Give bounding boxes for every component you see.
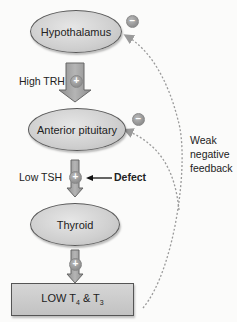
anterior-pituitary-label: Anterior pituitary bbox=[37, 124, 117, 136]
tsh-label: Low TSH bbox=[19, 171, 62, 183]
plus-icon: + bbox=[70, 75, 83, 88]
minus-icon: − bbox=[132, 113, 145, 126]
defect-label: Defect bbox=[114, 171, 146, 183]
feedback-label: Weak negative feedback bbox=[190, 133, 233, 175]
defect-arrow bbox=[86, 175, 112, 181]
thyroid-label: Thyroid bbox=[57, 219, 94, 231]
low-t4-t3-box: LOW T4 & T3 bbox=[11, 283, 134, 316]
trh-label: High TRH bbox=[19, 75, 65, 87]
thyroid-node: Thyroid bbox=[30, 203, 120, 246]
plus-icon: + bbox=[69, 171, 82, 184]
anterior-pituitary-node: Anterior pituitary bbox=[28, 108, 126, 151]
hypothalamus-node: Hypothalamus bbox=[30, 10, 122, 53]
minus-icon: − bbox=[126, 15, 139, 28]
output-label: LOW T4 & T3 bbox=[41, 292, 103, 306]
plus-icon: + bbox=[69, 258, 82, 271]
hypothalamus-label: Hypothalamus bbox=[41, 26, 111, 38]
